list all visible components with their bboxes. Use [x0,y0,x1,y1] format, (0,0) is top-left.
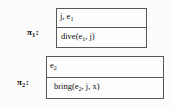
frame-pi2-variables-row: e2 [47,57,163,78]
frame-pi2-variables-subscript: 2 [54,65,57,71]
frame-pi1-variables-subscript: 1 [70,16,73,22]
frame-pi2-action-row: bring(e2, j, x) [47,78,163,98]
frame-pi2-action-tail: , j, x) [82,81,100,91]
frame-pi1-variables-text: j, e1 [60,12,73,24]
frame-pi2-variables-text: e2 [50,61,57,73]
pi-subscript-1: 1 [32,31,35,38]
frame-label-pi1: π1: [27,27,39,40]
frame-box-pi2: e2 bring(e2, j, x) [46,56,164,99]
frame-pi2-action-base: bring(e [54,81,79,91]
frame-pi2-action-text: bring(e2, j, x) [54,82,100,94]
frame-label-pi2: π2: [17,77,29,90]
frame-pi1-variables-base: j, e [60,11,70,21]
frame-pi1-action-row: dive(e1, j) [57,28,146,47]
frame-pi1-variables-row: j, e1 [57,9,146,28]
frame-pi1-action-text: dive(e1, j) [61,32,95,44]
pi-colon-1: : [36,27,39,37]
pi-subscript-2: 2 [22,81,25,88]
frame-box-pi1: j, e1 dive(e1, j) [56,8,147,48]
frame-pi1-action-tail: , j) [85,31,94,41]
frame-pi1-action-base: dive(e [61,31,82,41]
pi-colon-2: : [26,77,29,87]
plan-frame-diagram: π1: j, e1 dive(e1, j) π2: e2 bring(e2, j… [0,0,172,108]
